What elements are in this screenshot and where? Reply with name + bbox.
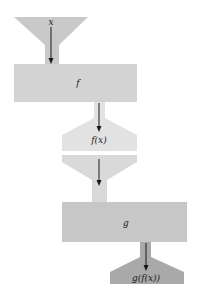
composition-diagram: x f f(x) g g(f(x)) [0, 0, 197, 284]
output-fx-label: f(x) [90, 135, 107, 145]
machine-g-label: g [123, 218, 129, 228]
output-gfx-label: g(f(x)) [132, 273, 161, 283]
input-label-x: x [48, 17, 53, 27]
